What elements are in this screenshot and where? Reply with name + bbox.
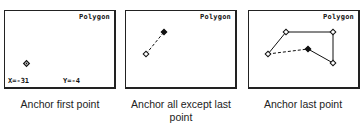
vertex-icon <box>330 60 336 66</box>
y-coordinate: Y=-4 <box>63 77 80 85</box>
active-vertex-icon <box>305 46 311 52</box>
panel-anchor-all-except-last: Polygon <box>125 10 237 89</box>
caption-anchor-first: Anchor first point <box>0 98 120 111</box>
caption-anchor-all-except-last: Anchor all except last point <box>121 98 241 124</box>
graph-area <box>126 11 238 90</box>
x-coordinate: X=-31 <box>8 77 29 85</box>
panel-anchor-first: Polygon X=-31 Y=-4 <box>4 10 116 89</box>
graph-area <box>249 11 361 90</box>
cursor-point-icon <box>24 61 30 67</box>
caption-anchor-last: Anchor last point <box>243 98 363 111</box>
panel-anchor-last: Polygon <box>248 10 360 89</box>
vertex-icon <box>330 29 336 35</box>
